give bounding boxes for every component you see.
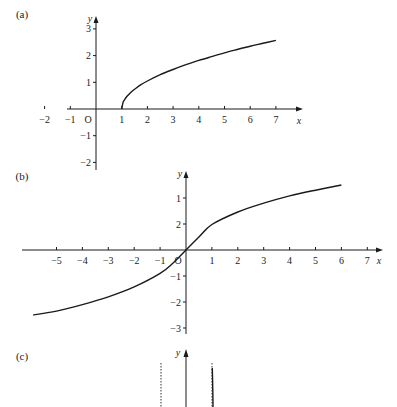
x-tick-label: −1 (65, 114, 76, 125)
x-tick-label: −5 (51, 255, 62, 266)
y-tick-label: 2 (86, 50, 91, 61)
x-tick-label: −4 (77, 255, 88, 266)
y-axis-arrow (94, 16, 99, 23)
x-tick-label: 1 (119, 114, 124, 125)
y-tick-label: 1 (86, 77, 91, 88)
chart-panel-a: (a)xyO−2−11234567321−1−2 (16, 8, 303, 170)
y-tick-label: −1 (80, 130, 91, 141)
y-tick-label: −1 (170, 271, 181, 282)
y-tick-label: −2 (80, 157, 91, 168)
x-axis-arrow (296, 107, 303, 112)
figure: (a)xyO−2−11234567321−1−2(b)xyO−5−4−3−2−1… (0, 0, 397, 407)
x-tick-label: 3 (171, 114, 176, 125)
x-axis-arrow (376, 248, 383, 253)
x-axis-label: x (376, 255, 382, 266)
y-tick-label: 3 (86, 23, 91, 34)
x-axis-label: x (296, 115, 302, 126)
x-tick-label: 4 (287, 255, 292, 266)
y-tick-label: 2 (176, 219, 181, 230)
x-tick-label: 5 (222, 114, 227, 125)
x-tick-label: 6 (339, 255, 344, 266)
x-tick-label: −2 (39, 114, 50, 125)
panel-label: (c) (16, 350, 29, 363)
x-tick-label: 7 (365, 255, 370, 266)
x-tick-label: 3 (261, 255, 266, 266)
x-tick-label: −3 (103, 255, 114, 266)
x-tick-label: 5 (313, 255, 318, 266)
y-axis-label: y (87, 13, 93, 24)
x-tick-label: 1 (209, 255, 214, 266)
y-axis-arrow (184, 171, 189, 178)
chart-panel-b: (b)xyO−5−4−3−2−1123456712−1−2−3 (16, 168, 383, 334)
y-axis-arrow (184, 349, 189, 357)
x-tick-label: −1 (155, 255, 166, 266)
x-tick-label: 4 (196, 114, 201, 125)
y-axis-label: y (177, 168, 183, 179)
panel-label: (a) (16, 8, 29, 21)
origin-label: O (84, 114, 91, 125)
x-tick-label: 2 (145, 114, 150, 125)
x-tick-label: 2 (235, 255, 240, 266)
y-tick-label: 1 (176, 193, 181, 204)
chart-panel-c: (c)y (16, 347, 213, 407)
y-tick-label: −3 (170, 323, 181, 334)
x-tick-label: −2 (129, 255, 140, 266)
x-tick-label: 7 (273, 114, 278, 125)
x-tick-label: 6 (248, 114, 253, 125)
y-axis-label: y (175, 347, 181, 358)
series-curve (122, 40, 276, 109)
series-curve (212, 368, 213, 407)
panel-label: (b) (16, 170, 29, 183)
y-tick-label: −2 (170, 297, 181, 308)
